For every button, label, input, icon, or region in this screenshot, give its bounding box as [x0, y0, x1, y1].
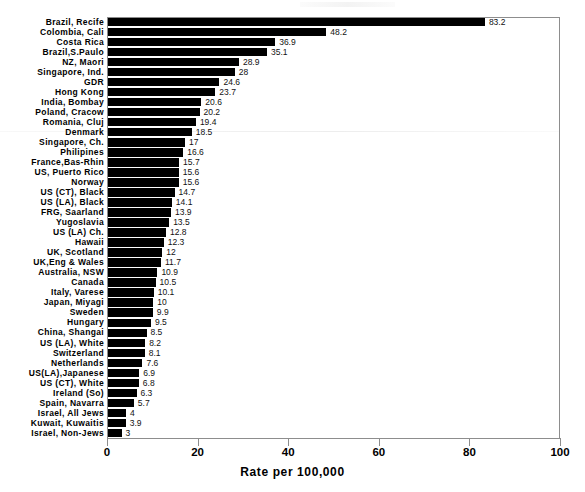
bar-and-value: 3.9 — [108, 418, 141, 428]
bar-category-label: US (LA), Black — [0, 198, 104, 207]
bar-category-label: France,Bas-Rhin — [0, 158, 104, 167]
bar-and-value: 17 — [108, 137, 198, 147]
bar-and-value: 24.6 — [108, 77, 240, 87]
bar — [108, 68, 235, 76]
bar — [108, 339, 145, 347]
bar — [108, 298, 153, 306]
bar-category-label: Costa Rica — [0, 38, 104, 47]
bar-and-value: 10 — [108, 298, 167, 308]
bar-category-label: Yugoslavia — [0, 218, 104, 227]
x-axis-tick — [107, 439, 108, 446]
bar-and-value: 13.5 — [108, 217, 190, 227]
bar — [108, 389, 137, 397]
bar-row: Colombia, Cali48.2 — [0, 27, 585, 37]
bar-value-label: 14.1 — [176, 198, 193, 207]
bar — [108, 319, 151, 327]
bar — [108, 138, 185, 146]
bar-row: US (CT), White6.8 — [0, 378, 585, 388]
bar-value-label: 18.5 — [196, 128, 213, 137]
bar-category-label: Brazil,S.Paulo — [0, 48, 104, 57]
bar-row: UK, Scotland12 — [0, 248, 585, 258]
x-axis-tick-label: 20 — [191, 447, 204, 459]
bar-value-label: 19.4 — [200, 118, 217, 127]
bar — [108, 419, 126, 427]
x-axis-tick-label: 40 — [282, 447, 295, 459]
bar-value-label: 24.6 — [223, 78, 240, 87]
bar-value-label: 35.1 — [271, 48, 288, 57]
bar — [108, 28, 326, 36]
bar-and-value: 11.7 — [108, 258, 181, 268]
bar-and-value: 35.1 — [108, 47, 288, 57]
bar-and-value: 20.2 — [108, 107, 220, 117]
bar-and-value: 8.5 — [108, 328, 162, 338]
bar-row: UK,Eng & Wales11.7 — [0, 258, 585, 268]
bar-row: US (CT), Black14.7 — [0, 187, 585, 197]
bar-value-label: 12.8 — [170, 228, 187, 237]
bar-row: Israel, All Jews4 — [0, 408, 585, 418]
x-axis-tick-labels: 020406080100 — [107, 447, 561, 461]
bar-value-label: 3.9 — [130, 419, 142, 428]
bar-category-label: FRG, Saarland — [0, 208, 104, 217]
bar-and-value: 19.4 — [108, 117, 216, 127]
bar-category-label: Israel, Non-Jews — [0, 429, 104, 438]
bar-value-label: 4 — [130, 409, 135, 418]
bar-category-label: Spain, Navarra — [0, 399, 104, 408]
x-axis-tick-label: 80 — [463, 447, 476, 459]
bar-row: Singapore, Ch.17 — [0, 137, 585, 147]
bar-and-value: 8.2 — [108, 338, 161, 348]
bar-row: Ireland (So)6.3 — [0, 388, 585, 398]
bar — [108, 168, 179, 176]
bar-value-label: 15.6 — [183, 178, 200, 187]
bar-and-value: 36.9 — [108, 37, 296, 47]
bar-and-value: 5.7 — [108, 398, 150, 408]
bar-and-value: 6.9 — [108, 368, 155, 378]
bar-value-label: 9.5 — [155, 318, 167, 327]
bar-category-label: Colombia, Cali — [0, 28, 104, 37]
bar-and-value: 9.9 — [108, 308, 169, 318]
bar — [108, 118, 196, 126]
bar-and-value: 28 — [108, 67, 248, 77]
bar-value-label: 10.9 — [161, 268, 178, 277]
bar — [108, 218, 169, 226]
bar-value-label: 8.5 — [151, 328, 163, 337]
bar-and-value: 15.6 — [108, 167, 199, 177]
bar — [108, 58, 239, 66]
bar-category-label: UK,Eng & Wales — [0, 258, 104, 267]
bar-value-label: 8.1 — [149, 349, 161, 358]
bar-row: NZ, Maori28.9 — [0, 57, 585, 67]
bar-and-value: 48.2 — [108, 27, 347, 37]
x-axis-tick-label: 100 — [550, 447, 569, 459]
bar-and-value: 10.1 — [108, 288, 174, 298]
bar-row: Switzerland8.1 — [0, 348, 585, 358]
bar-row: Japan, Miyagi10 — [0, 298, 585, 308]
x-axis-title: Rate per 100,000 — [0, 466, 585, 478]
x-axis-tick — [560, 439, 561, 446]
bar-category-label: Norway — [0, 178, 104, 187]
bar-and-value: 8.1 — [108, 348, 161, 358]
bar-category-label: Japan, Miyagi — [0, 298, 104, 307]
bar — [108, 18, 485, 26]
bar — [108, 188, 175, 196]
bar-value-label: 15.6 — [183, 168, 200, 177]
bar-value-label: 13.5 — [173, 218, 190, 227]
bar-row: Italy, Varese10.1 — [0, 288, 585, 298]
bar-row: Hawaii12.3 — [0, 238, 585, 248]
bar — [108, 108, 200, 116]
bar-category-label: Israel, All Jews — [0, 409, 104, 418]
bar-and-value: 12 — [108, 248, 176, 258]
bar-row: Sweden9.9 — [0, 308, 585, 318]
bar-category-label: Philipines — [0, 148, 104, 157]
bar-and-value: 10.5 — [108, 278, 176, 288]
bar — [108, 429, 122, 437]
bar — [108, 258, 161, 266]
bar-row: Norway15.6 — [0, 177, 585, 187]
bar-category-label: Denmark — [0, 128, 104, 137]
bar — [108, 288, 154, 296]
bar-value-label: 11.7 — [165, 258, 181, 267]
bar-category-label: Poland, Cracow — [0, 108, 104, 117]
x-axis-ticks — [107, 439, 561, 446]
bar-category-label: Hawaii — [0, 238, 104, 247]
bar-and-value: 14.7 — [108, 187, 195, 197]
bar-value-label: 3 — [126, 429, 131, 438]
bar — [108, 369, 139, 377]
